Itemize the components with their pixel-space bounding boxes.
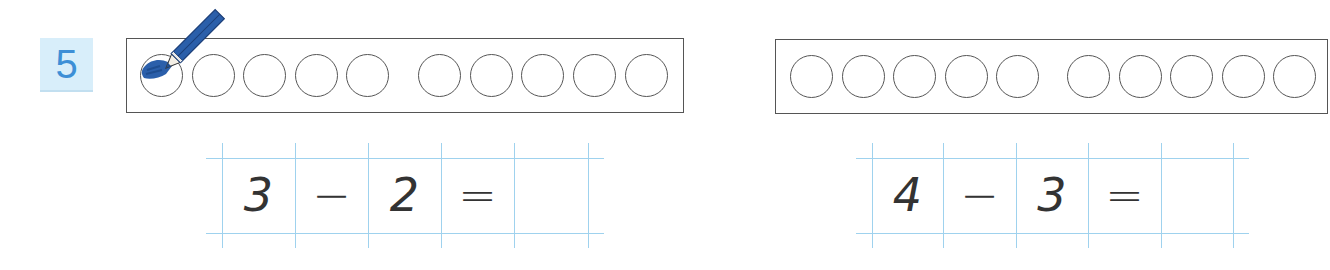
subtrahend: 2 (368, 172, 441, 218)
minus-sign: − (295, 172, 368, 218)
counter-circle[interactable] (1119, 55, 1162, 98)
minuend: 3 (222, 172, 295, 218)
subtrahend: 3 (1016, 172, 1088, 218)
answer-cell[interactable] (1161, 160, 1233, 232)
counter-circle[interactable] (1067, 55, 1110, 98)
minus-sign: − (943, 172, 1016, 218)
counter-circle[interactable] (945, 55, 988, 98)
equals-sign: = (1088, 172, 1161, 218)
counter-circle[interactable] (996, 55, 1039, 98)
counter-circle[interactable] (1222, 55, 1265, 98)
counter-circle[interactable] (1170, 55, 1213, 98)
equals-sign: = (441, 172, 514, 218)
minuend: 4 (872, 172, 943, 218)
counter-circle[interactable] (842, 55, 885, 98)
counter-circle[interactable] (1273, 55, 1316, 98)
counter-circle[interactable] (790, 55, 833, 98)
counter-circle[interactable] (893, 55, 936, 98)
answer-cell[interactable] (514, 160, 587, 232)
